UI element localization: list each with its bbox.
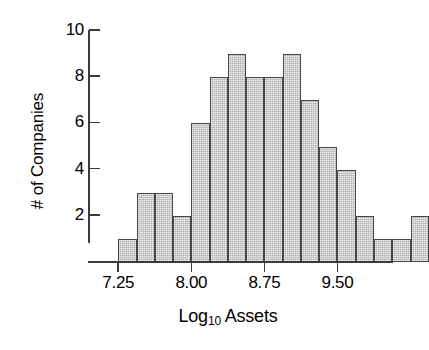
y-axis-tick-mark [89,214,100,216]
x-axis-tick-mark [337,262,339,272]
y-axis-spine [88,30,90,243]
plot-area [100,30,374,262]
histogram-bar [137,193,155,262]
y-axis-tick-label: 4 [56,160,84,177]
histogram-bar [283,54,301,262]
x-axis-title: Log10 Assets [0,306,414,328]
x-axis-tick-label: 8.75 [234,274,294,292]
histogram-bar [210,77,228,262]
histogram-bar [191,123,209,262]
x-axis-title-subscript: 10 [208,314,221,328]
x-axis-spine [88,261,393,263]
x-axis-title-base: Log [178,306,207,326]
y-axis-tick-label: 2 [56,206,84,223]
histogram-bar [374,239,392,262]
y-axis-tick-label: 8 [56,67,84,84]
x-axis-tick-mark [191,262,193,272]
x-axis-title-rest: Assets [221,306,278,326]
y-axis-tick-mark [89,75,100,77]
y-axis-tick-mark [89,29,100,31]
y-axis-tick-mark [89,122,100,124]
histogram-bar [155,193,173,262]
histogram-bar [246,77,264,262]
histogram-bar [319,147,337,263]
histogram-bar [118,239,136,262]
y-axis-tick-mark [89,168,100,170]
y-axis-title: # of Companies [29,51,47,251]
histogram-bar [337,170,355,262]
x-axis-tick-mark [264,262,266,272]
x-axis-tick-label: 8.00 [161,274,221,292]
x-axis-tick-mark [117,262,119,272]
histogram-bar [356,216,374,262]
histogram-bar [228,54,246,262]
y-axis-tick-label: 10 [56,21,84,38]
y-axis-tick-label: 6 [56,113,84,130]
histogram-bar [264,77,282,262]
x-axis-tick-label: 9.50 [307,274,367,292]
histogram-bar [301,100,319,262]
histogram-bar [392,239,410,262]
x-axis-tick-label: 7.25 [88,274,148,292]
histogram-bar [411,216,429,262]
histogram-bar [173,216,191,262]
